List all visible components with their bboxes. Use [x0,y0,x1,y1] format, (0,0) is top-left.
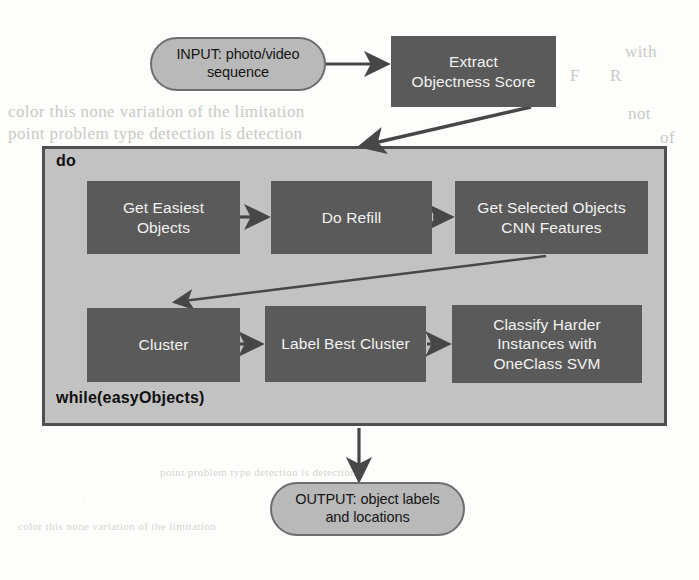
node-input-line1: INPUT: photo/video [176,46,299,62]
node-input-line2: sequence [207,64,269,80]
bleed-text-2: with [625,42,657,62]
node-cluster[interactable]: Cluster [87,308,240,382]
bleed-text-8: of [660,128,675,148]
edge-extract-to-loop [361,107,531,146]
node-output[interactable]: OUTPUT: object labels and locations [270,482,465,536]
node-classify-harder-instances[interactable]: Classify Harder Instances with OneClass … [452,305,642,383]
node-geteasiest-line2: Objects [137,219,190,236]
node-extract-line2: Objectness Score [412,73,536,90]
node-extract-line1: Extract [449,53,498,70]
node-dorefill-line1: Do Refill [322,208,381,228]
node-get-selected-objects-cnn-features[interactable]: Get Selected Objects CNN Features [455,181,648,254]
bleed-text-7: not [628,104,651,124]
bleed-text-9: point problem type detection is detectio… [160,466,356,478]
bleed-text-5: color this none variation of the limitat… [8,102,305,122]
node-extract-objectness-score[interactable]: Extract Objectness Score [391,36,556,107]
node-classify-line2: Instances with [497,335,597,352]
bleed-text-10: color this none variation of the limitat… [18,520,216,532]
node-cnnfeatures-line2: CNN Features [501,219,601,236]
bleed-text-3: F [570,66,580,86]
node-do-refill[interactable]: Do Refill [271,181,432,254]
loop-do-keyword: do [56,152,76,170]
node-cluster-line1: Cluster [139,335,189,355]
node-cnnfeatures-line1: Get Selected Objects [477,199,625,216]
diagram-canvas: the with F R color this none variation o… [0,0,699,580]
node-input[interactable]: INPUT: photo/video sequence [150,37,326,91]
node-output-line2: and locations [325,509,409,525]
node-output-line1: OUTPUT: object labels [295,491,440,507]
node-classify-line1: Classify Harder [493,316,600,333]
node-geteasiest-line1: Get Easiest [123,199,204,216]
node-labelbest-line1: Label Best Cluster [281,334,409,354]
node-label-best-cluster[interactable]: Label Best Cluster [265,306,426,382]
loop-while-keyword: while(easyObjects) [56,389,205,407]
bleed-text-6: point problem type detection is detectio… [8,124,302,144]
node-get-easiest-objects[interactable]: Get Easiest Objects [87,181,240,254]
bleed-text-4: R [610,66,622,86]
node-classify-line3: OneClass SVM [493,355,600,372]
